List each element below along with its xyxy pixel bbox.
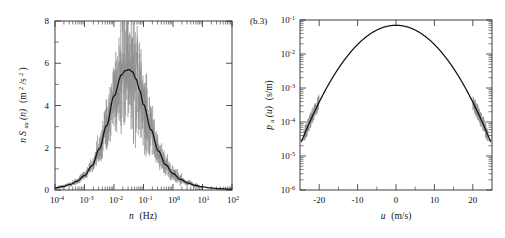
pdf-axes-frame: [300, 20, 492, 190]
pdf-xtick-1: -10: [352, 195, 364, 205]
pdf-ytick-labels: 10-1 10-2 10-3 10-4 10-5 10-6: [281, 14, 295, 195]
pdf-xtick-3: 10: [430, 195, 440, 205]
spectrum-xtick-6: 102: [227, 194, 239, 205]
pdf-ytick-2: 10-3: [281, 82, 295, 93]
spectrum-xtick-3: 10-1: [139, 194, 153, 205]
spectrum-xtick-0: 10-4: [50, 194, 64, 205]
spectrum-xtick-5: 101: [198, 194, 210, 205]
figure-two-panel: 0 2 4 6 8: [0, 0, 505, 238]
spectrum-xtick-1: 10-3: [80, 194, 94, 205]
pdf-y-minor-ticks: [300, 22, 492, 180]
pdf-ytick-5: 10-6: [281, 184, 295, 195]
pdf-y-axis-ticks: [300, 20, 492, 190]
pdf-ytick-3: 10-4: [281, 116, 295, 127]
spectrum-ytick-0: 0: [45, 185, 50, 195]
spectrum-xtick-2: 10-2: [109, 194, 123, 205]
pdf-yaxis-title: p u (u) (s/m): [264, 80, 276, 131]
pdf-fit-curve: [302, 25, 491, 141]
panel-pdf: (b.3) 10-1 10-2 10-3: [250, 0, 505, 238]
pdf-xtick-4: 20: [468, 195, 478, 205]
pdf-x-axis-ticks: [319, 20, 473, 190]
panel-spectrum: 0 2 4 6 8: [0, 0, 250, 238]
pdf-ytick-4: 10-5: [281, 150, 295, 161]
pdf-xtick-0: -20: [313, 195, 325, 205]
spectrum-ytick-2: 2: [45, 143, 50, 153]
spectrum-plot-svg: 0 2 4 6 8: [0, 0, 250, 238]
spectrum-yaxis-title: n S uu (n) (m 2 /s 2 ): [15, 67, 30, 143]
spectrum-raw-data-trace: [55, 21, 200, 190]
spectrum-ytick-8: 8: [45, 16, 50, 26]
spectrum-xtick-labels: 10-4 10-3 10-2 10-1 100 101 102: [50, 194, 239, 205]
pdf-ytick-0: 10-1: [281, 14, 295, 25]
pdf-xtick-labels: -20 -10 0 10 20: [313, 195, 478, 205]
spectrum-ytick-6: 6: [45, 58, 50, 68]
pdf-ytick-1: 10-2: [281, 48, 295, 59]
pdf-xtick-2: 0: [394, 195, 399, 205]
panel-b-label: (b.3): [250, 16, 267, 26]
pdf-raw-data-trace: [304, 94, 488, 142]
spectrum-xtick-4: 100: [168, 194, 180, 205]
pdf-plot-svg: (b.3) 10-1 10-2 10-3: [250, 0, 505, 238]
pdf-xaxis-title: u (m/s): [381, 211, 412, 222]
spectrum-xaxis-title: n (Hz): [129, 211, 157, 222]
spectrum-ytick-4: 4: [45, 101, 50, 111]
